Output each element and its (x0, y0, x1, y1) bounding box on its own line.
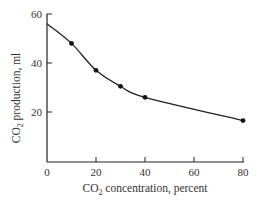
data-curve (47, 24, 243, 121)
data-point-marker (94, 68, 99, 73)
data-point-marker (241, 118, 246, 123)
x-tick-label-60: 60 (189, 166, 201, 178)
y-tick-label-40: 40 (31, 57, 43, 69)
x-tick-label-40: 40 (140, 166, 152, 178)
y-tick-label-60: 60 (31, 8, 43, 20)
y-axis-label: CO2 production, ml (10, 53, 25, 144)
data-point-marker (118, 84, 123, 89)
data-markers (69, 41, 245, 123)
x-axis-label: CO2 concentration, percent (82, 182, 208, 197)
data-point-marker (69, 41, 74, 46)
y-tick-label-20: 20 (31, 106, 43, 118)
data-point-marker (143, 95, 148, 100)
x-tick-label-0: 0 (44, 166, 50, 178)
chart: 60 40 20 0 20 40 60 80 CO2 concentration… (0, 0, 262, 205)
x-tick-label-80: 80 (238, 166, 250, 178)
x-tick-label-20: 20 (91, 166, 103, 178)
